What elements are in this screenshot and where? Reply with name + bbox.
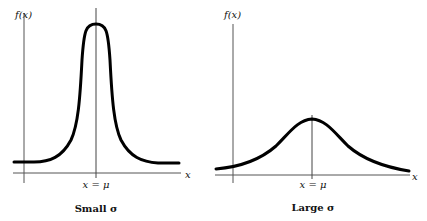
x-axis-label: x [185,169,191,180]
mean-label: x = μ [83,179,110,190]
panel-small-sigma: f(x) x x = μ Small σ [13,8,191,214]
y-axis-label: f(x) [223,9,241,20]
caption-large-sigma: Large σ [292,202,335,213]
mean-label: x = μ [300,179,327,190]
diagram-canvas: f(x) x x = μ Small σ f(x) x x = μ Large … [0,0,427,221]
y-axis-label: f(x) [14,9,32,20]
panel-large-sigma: f(x) x x = μ Large σ [215,9,418,213]
x-axis-label: x [412,171,418,182]
caption-small-sigma: Small σ [75,203,118,214]
